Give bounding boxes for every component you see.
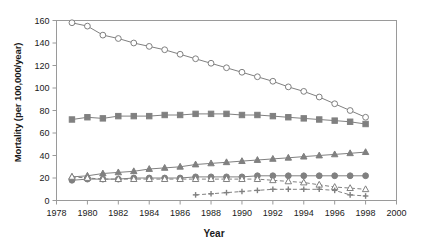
marker-filled-square [69,117,74,122]
marker-open-circle [270,78,276,84]
marker-open-circle [347,108,353,114]
marker-open-circle [146,43,152,49]
x-tick-label: 1980 [77,208,97,218]
marker-open-circle [131,40,137,46]
marker-filled-circle [332,173,338,179]
x-tick-label: 1984 [139,208,159,218]
series-line [196,189,366,196]
y-tick-label: 80 [39,106,49,116]
marker-open-circle [162,47,168,53]
marker-filled-square [239,112,244,117]
x-tick-label: 1986 [170,208,190,218]
marker-open-circle [115,36,121,42]
marker-filled-square [208,111,213,116]
marker-filled-circle [316,173,322,179]
marker-open-circle [301,88,307,94]
y-tick-label: 160 [34,16,49,26]
marker-filled-triangle [362,149,368,155]
series-cross [193,186,369,198]
marker-cross [208,191,214,197]
x-tick-label: 1998 [356,208,376,218]
marker-filled-circle [301,173,307,179]
marker-filled-square [162,112,167,117]
marker-filled-square [131,113,136,118]
marker-filled-square [363,121,368,126]
marker-cross [270,186,276,192]
y-tick-label: 20 [39,173,49,183]
marker-open-triangle [362,186,368,192]
marker-open-circle [332,101,338,107]
series-open-circle [69,20,368,120]
marker-cross [363,193,369,199]
series-filled-circle [69,173,368,183]
y-tick-label: 100 [34,83,49,93]
series-filled-square [69,111,368,127]
marker-open-triangle [316,181,322,187]
marker-filled-square [347,119,352,124]
marker-open-circle [177,51,183,57]
marker-open-circle [69,20,75,26]
y-axis-title: Mortality (per 100,000/year) [12,13,23,193]
marker-open-triangle [285,178,291,184]
marker-filled-square [85,115,90,120]
marker-cross [224,190,230,196]
marker-open-circle [255,74,261,80]
marker-cross [193,192,199,198]
marker-cross [301,186,307,192]
y-tick-label: 60 [39,128,49,138]
marker-filled-circle [347,173,353,179]
marker-filled-square [317,117,322,122]
y-tick-label: 120 [34,61,49,71]
marker-cross [286,186,292,192]
x-tick-label: 1990 [232,208,252,218]
x-tick-label: 1996 [325,208,345,218]
x-tick-label: 1982 [108,208,128,218]
marker-open-circle [85,23,91,29]
y-tick-label: 140 [34,38,49,48]
x-tick-label: 1978 [46,208,66,218]
mortality-line-chart: 0204060801001201401601978198019821984198… [0,0,428,246]
marker-cross [239,189,245,195]
x-tick-label: 1994 [294,208,314,218]
marker-open-circle [100,32,106,38]
plot-area: 0204060801001201401601978198019821984198… [0,0,428,246]
marker-filled-square [147,113,152,118]
marker-open-circle [224,65,230,71]
marker-filled-square [255,112,260,117]
marker-open-circle [208,60,214,66]
x-axis-title: Year [0,228,428,239]
marker-filled-square [270,113,275,118]
marker-filled-circle [363,173,369,179]
marker-filled-square [332,118,337,123]
marker-open-circle [239,69,245,75]
marker-open-circle [193,56,199,62]
x-tick-label: 1988 [201,208,221,218]
marker-open-circle [285,84,291,90]
y-tick-label: 40 [39,151,49,161]
marker-filled-square [286,115,291,120]
marker-open-circle [363,114,369,120]
series-filled-triangle [69,149,369,180]
marker-open-circle [316,94,322,100]
marker-cross [255,188,261,194]
marker-cross [347,192,353,198]
y-tick-label: 0 [44,196,49,206]
x-tick-label: 2000 [386,208,406,218]
marker-filled-square [193,111,198,116]
marker-filled-square [177,112,182,117]
x-tick-label: 1992 [263,208,283,218]
marker-filled-square [301,116,306,121]
marker-filled-square [116,113,121,118]
marker-filled-square [100,116,105,121]
marker-filled-square [224,111,229,116]
